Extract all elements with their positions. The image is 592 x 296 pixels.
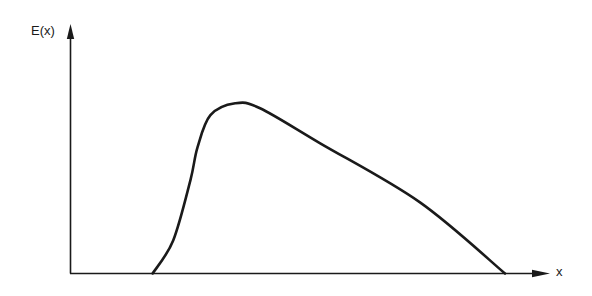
y-axis-label: E(x) bbox=[31, 24, 55, 37]
x-axis-label: x bbox=[556, 265, 563, 278]
y-axis-arrow-icon bbox=[67, 24, 74, 39]
x-axis-arrow-icon bbox=[532, 270, 550, 277]
e-x-curve bbox=[153, 103, 505, 274]
chart-canvas bbox=[0, 0, 592, 296]
